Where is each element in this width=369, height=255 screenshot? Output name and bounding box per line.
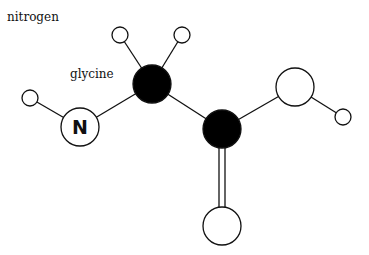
hydrogen-atom-4 <box>335 109 351 125</box>
oxygen-atom-2 <box>203 207 241 245</box>
carbon-atom-1 <box>133 65 171 103</box>
nitrogen-label: nitrogen <box>7 10 59 24</box>
hydrogen-atom-1 <box>22 90 38 106</box>
molecule-drawing: N <box>0 0 369 255</box>
carbon-atom-2 <box>203 110 241 148</box>
oxygen-atom-1 <box>276 68 314 106</box>
nitrogen-symbol: N <box>72 116 88 138</box>
hydrogen-atom-2 <box>112 27 128 43</box>
hydrogen-atom-3 <box>174 27 190 43</box>
glycine-diagram: N nitrogen glycine <box>0 0 369 255</box>
glycine-label: glycine <box>70 67 114 81</box>
